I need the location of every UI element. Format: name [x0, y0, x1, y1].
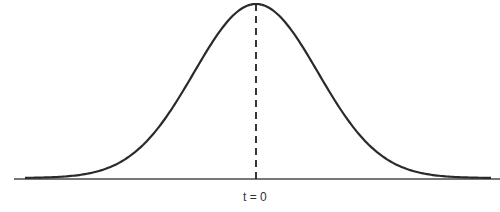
gaussian-diagram	[0, 0, 500, 212]
gaussian-curve	[25, 4, 491, 178]
center-label: t = 0	[243, 190, 267, 204]
